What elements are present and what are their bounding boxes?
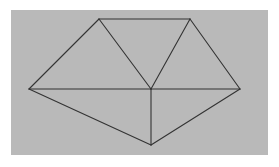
geometric-figure-svg [0, 0, 279, 167]
figure-canvas [0, 0, 279, 167]
plate-background [11, 10, 268, 155]
